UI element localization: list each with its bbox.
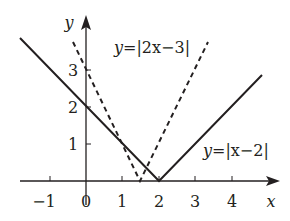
x-axis-label: x	[266, 192, 275, 211]
x-tick-label: −1	[32, 192, 56, 211]
y-axis-label: y	[63, 13, 74, 32]
y-tick-label: 2	[68, 98, 78, 117]
y-tick-label: 1	[68, 135, 78, 154]
x-tick-label: 2	[154, 192, 164, 211]
equation-label-dashed: y=|2x−3|	[113, 38, 190, 57]
y-tick-label: 3	[68, 61, 78, 80]
dashed-line-abs-2x-minus-3	[73, 42, 208, 181]
graph-canvas: −1 0 1 2 3 4 1 2 3 y x y=|2x−3| y=|x−2|	[0, 0, 290, 221]
x-tick-label: 1	[117, 192, 127, 211]
x-tick-label: 4	[227, 192, 237, 211]
x-tick-label: 0	[81, 192, 91, 211]
x-tick-label: 3	[190, 192, 200, 211]
equation-label-solid: y=|x−2|	[202, 141, 269, 160]
